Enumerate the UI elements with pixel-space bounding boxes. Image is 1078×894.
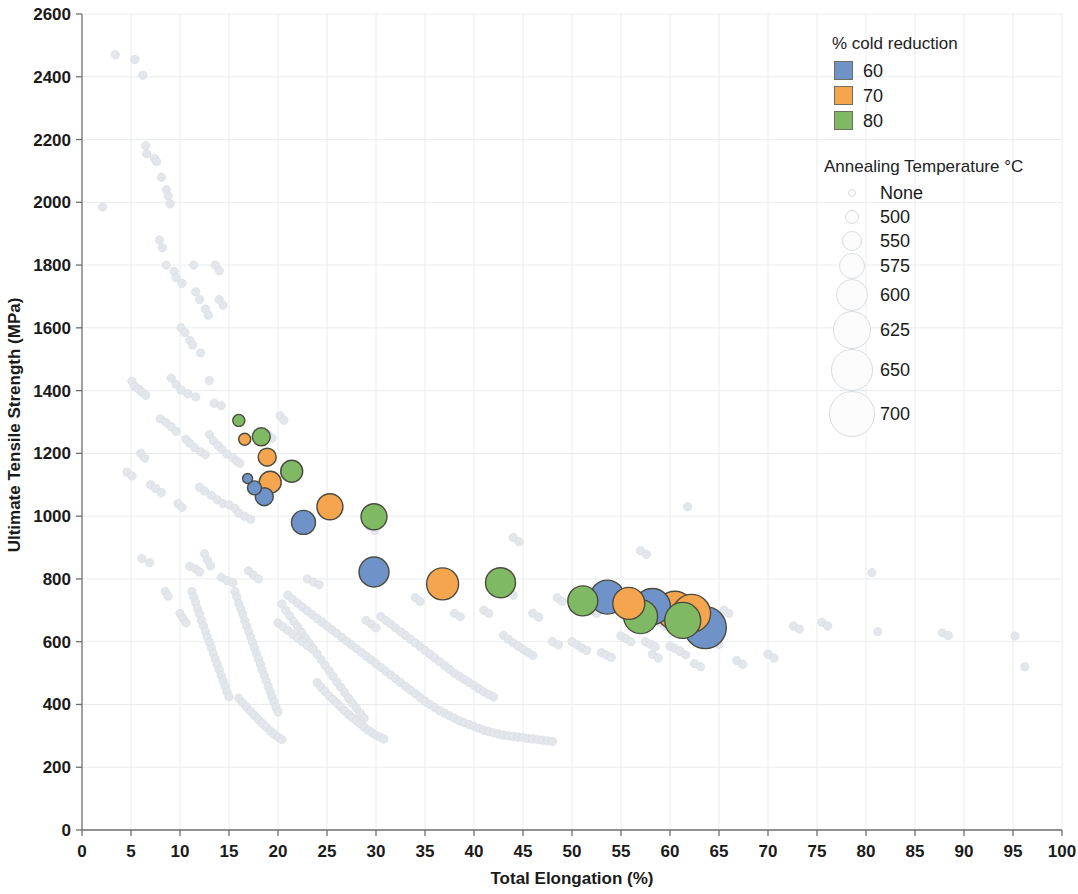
svg-text:25: 25	[318, 842, 337, 861]
svg-text:55: 55	[612, 842, 631, 861]
svg-text:2000: 2000	[33, 193, 71, 212]
svg-text:45: 45	[514, 842, 533, 861]
size-legend-item-650[interactable]: 650	[824, 349, 1068, 391]
svg-text:10: 10	[171, 842, 190, 861]
size-marker-icon	[824, 253, 880, 279]
svg-text:2600: 2600	[33, 5, 71, 24]
svg-text:70: 70	[759, 842, 778, 861]
size-legend-label: 700	[880, 404, 910, 425]
size-marker-icon	[824, 279, 880, 311]
color-legend-item-70[interactable]: 70	[834, 83, 1068, 108]
color-legend-entries: 607080	[818, 58, 1068, 133]
size-legend-item-550[interactable]: 550	[824, 229, 1068, 253]
color-legend-item-80[interactable]: 80	[834, 108, 1068, 133]
size-legend-label: 600	[880, 285, 910, 306]
svg-text:20: 20	[269, 842, 288, 861]
svg-text:1600: 1600	[33, 319, 71, 338]
chart-legend: % cold reduction 607080 Annealing Temper…	[818, 34, 1068, 437]
size-marker-icon	[824, 311, 880, 349]
svg-text:35: 35	[416, 842, 435, 861]
svg-text:600: 600	[43, 633, 71, 652]
color-legend-title: % cold reduction	[832, 34, 1068, 54]
size-legend-item-625[interactable]: 625	[824, 311, 1068, 349]
size-legend-label: 550	[880, 231, 910, 252]
scatter-chart-figure: 0510152025303540455055606570758085909510…	[0, 0, 1078, 894]
size-legend-item-700[interactable]: 700	[824, 391, 1068, 437]
svg-text:65: 65	[710, 842, 729, 861]
y-axis-title: Ultimate Tensile Strength (MPa)	[5, 298, 24, 553]
size-marker-icon	[824, 189, 880, 197]
size-marker-icon	[824, 349, 880, 391]
size-legend-label: None	[880, 183, 923, 204]
svg-text:0: 0	[77, 842, 86, 861]
svg-text:1400: 1400	[33, 382, 71, 401]
svg-text:2200: 2200	[33, 131, 71, 150]
svg-text:200: 200	[43, 758, 71, 777]
svg-text:30: 30	[367, 842, 386, 861]
size-legend-label: 500	[880, 207, 910, 228]
size-legend-item-None[interactable]: None	[824, 181, 1068, 205]
size-legend-title: Annealing Temperature °C	[824, 157, 1068, 177]
size-marker-icon	[824, 391, 880, 437]
size-legend-label: 575	[880, 256, 910, 277]
svg-text:1000: 1000	[33, 507, 71, 526]
size-legend-item-500[interactable]: 500	[824, 205, 1068, 229]
color-legend-label: 60	[863, 62, 883, 80]
size-legend-entries: None500550575600625650700	[818, 181, 1068, 437]
color-swatch-icon	[834, 111, 853, 130]
size-marker-icon	[824, 210, 880, 224]
color-swatch-icon	[834, 61, 853, 80]
size-legend-label: 650	[880, 360, 910, 381]
size-legend-label: 625	[880, 320, 910, 341]
svg-text:0: 0	[62, 821, 71, 840]
svg-text:100: 100	[1048, 842, 1076, 861]
color-swatch-icon	[834, 86, 853, 105]
svg-text:95: 95	[1004, 842, 1023, 861]
color-legend-label: 70	[863, 87, 883, 105]
color-legend-label: 80	[863, 112, 883, 130]
svg-text:1200: 1200	[33, 444, 71, 463]
svg-text:90: 90	[955, 842, 974, 861]
size-legend-item-600[interactable]: 600	[824, 279, 1068, 311]
svg-text:80: 80	[857, 842, 876, 861]
x-axis-title: Total Elongation (%)	[490, 869, 653, 888]
svg-text:60: 60	[661, 842, 680, 861]
size-marker-icon	[824, 231, 880, 251]
svg-text:1800: 1800	[33, 256, 71, 275]
svg-text:2400: 2400	[33, 68, 71, 87]
svg-text:15: 15	[220, 842, 239, 861]
svg-text:50: 50	[563, 842, 582, 861]
svg-text:40: 40	[465, 842, 484, 861]
svg-text:800: 800	[43, 570, 71, 589]
svg-text:85: 85	[906, 842, 925, 861]
svg-text:75: 75	[808, 842, 827, 861]
color-legend-item-60[interactable]: 60	[834, 58, 1068, 83]
svg-text:5: 5	[126, 842, 135, 861]
svg-text:400: 400	[43, 695, 71, 714]
size-legend-item-575[interactable]: 575	[824, 253, 1068, 279]
